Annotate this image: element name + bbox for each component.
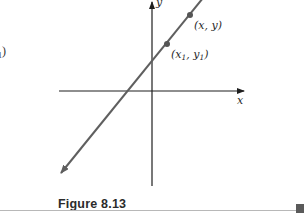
page-end-marker	[296, 204, 304, 213]
point-x-y-label: (x, y)	[194, 19, 222, 32]
divider-line	[0, 210, 296, 211]
coordinate-diagram: y x (x1, y1) (x, y)	[0, 0, 304, 213]
point-x-y	[187, 12, 193, 18]
point-x1-y1	[164, 41, 170, 47]
figure-caption: Figure 8.13	[58, 197, 126, 211]
x-axis-label: x	[237, 94, 244, 107]
y-axis-label: y	[155, 0, 163, 9]
graph-line	[61, 0, 203, 173]
point-x1-y1-label: (x1, y1)	[171, 48, 209, 62]
